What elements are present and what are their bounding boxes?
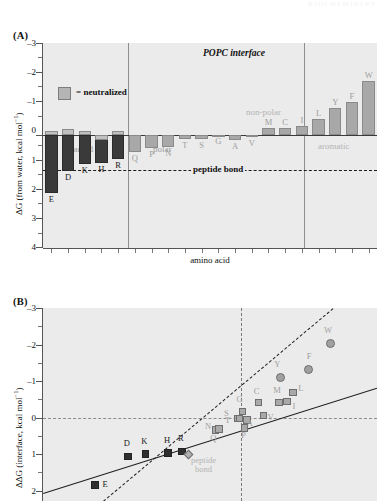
panel-b-zero-horizontal-line [43,418,377,419]
panel-b-ytick-minor-5 [38,472,42,473]
bar-label-Y: Y [326,97,344,107]
bar-label-I: I [293,115,311,125]
panel-a-xtick-G [218,249,219,253]
panel-b-ytick-minor-2 [38,363,42,364]
panel-a-xtick-N [168,249,169,253]
bar-S [195,135,207,139]
panel-a-xtick-R [118,249,119,253]
panel-a-ytick-minor-5 [38,174,42,175]
point-label-V: V [263,412,279,422]
panel-a-ytick-mark--1 [36,101,42,102]
point-D [124,453,132,461]
bar-label-R: R [109,160,127,170]
panel-b-ytick--1: –1 [18,376,36,386]
panel-a-ytick-mark-2 [36,189,42,190]
legend-swatch-neutralized [58,87,71,100]
panel-b-ytick-minor-4 [38,436,42,437]
panel-a-ytick-1: 1 [18,155,36,165]
panel-a-xtick-V [252,249,253,253]
point-label-D: D [119,438,135,448]
bar-N [162,135,174,147]
panel-a-ytick-mark-3 [36,218,42,219]
point-label-N: N [200,421,216,431]
bar-neutralized-cap-E [45,131,57,135]
bar-label-S: S [193,140,211,150]
panel-a-ytick-minor-2 [38,86,42,87]
panel-b-ytick--3: –3 [18,303,36,313]
panel-a-y-axis-label-sup: −1 [12,115,19,122]
panel-a-ytick-minor-6 [38,203,42,204]
point-label-K: K [136,436,152,446]
point-label-Y: Y [269,359,285,369]
bar-label-A: A [226,141,244,151]
panel-b-peptide-bond-annotation: peptide bond [191,456,216,474]
point-label-R: R [173,433,189,443]
panel-a-xtick-I [302,249,303,253]
panel-a-xtick-F [352,249,353,253]
bar-label-K: K [76,165,94,175]
point-label-M: M [269,385,285,395]
panel-b-ytick-1: 1 [18,449,36,459]
panel-a-xtick-M [268,249,269,253]
bar-label-T: T [176,140,194,150]
panel-a-ytick-minor-1 [38,57,42,58]
peptide-bond-label: peptide bond [191,164,245,174]
bar-neutralized-cap-D [62,129,74,135]
group-label-aromatic: aromatic [318,141,349,151]
point-label-E: E [97,479,113,489]
panel-b-zero-vertical-line [241,308,242,501]
bar-neutralized-cap-H [95,135,107,140]
point-label-C: C [249,386,265,396]
bar-neutralized-cap-R [112,131,124,135]
panel-b-dashed-reference-line [103,308,341,501]
bar-T [179,135,191,139]
point-label-W: W [320,325,336,335]
bar-label-L: L [310,108,328,118]
bar-K [79,135,91,164]
point-label-L: L [293,383,309,393]
panel-b-annotation-line2: bond [191,465,216,474]
panel-b-ytick-mark--3 [36,308,42,309]
bar-E [45,135,57,193]
panel-a-ytick-mark-1 [36,160,42,161]
bar-P [145,135,157,148]
panel-a-ytick--1: –1 [18,96,36,106]
point-W [326,339,335,348]
panel-a-ytick-minor-7 [38,233,42,234]
panel-b-ytick-minor-1 [38,326,42,327]
panel-a-xtick-T [185,249,186,253]
bar-R [112,135,124,159]
panel-a-ytick-4: 4 [18,242,36,252]
panel-a-y-axis-label-suffix: ) [14,112,24,115]
panel-a-ytick-mark-0 [36,135,42,136]
running-header: BIOCHEMISTRY [308,0,377,7]
panel-a-xtick-D [68,249,69,253]
bar-I [296,126,308,135]
panel-b-y-axis-label-sup: −1 [12,391,19,398]
point-F [304,365,313,374]
panel-b-ytick-mark--1 [36,381,42,382]
panel-a-ytick--2: –2 [18,67,36,77]
panel-a-x-axis-label: amino acid [43,255,377,265]
panel-b-ytick-0: 0 [18,413,36,423]
bar-label-D: D [59,172,77,182]
point-label-Q: Q [205,433,221,443]
panel-b-ytick-mark-0 [36,418,42,419]
panel-a-xtick-Y [335,249,336,253]
bar-C [279,128,291,135]
bar-label-M: M [259,117,277,127]
panel-b-ytick-minor-3 [38,399,42,400]
panel-a-ytick-2: 2 [18,184,36,194]
point-C [255,399,263,407]
point-H [164,449,172,457]
bar-V [246,135,258,137]
panel-a-xtick-A [235,249,236,253]
bar-label-H: H [92,164,110,174]
point-K [142,450,150,458]
panel-a-ytick-minor-3 [38,116,42,117]
bar-D [62,135,74,171]
panel-a-xtick-S [202,249,203,253]
panel-a-ytick-0: 0 [18,125,36,135]
point-label-A: A [242,418,258,428]
group-divider-nonpolar-aromatic [304,43,305,248]
